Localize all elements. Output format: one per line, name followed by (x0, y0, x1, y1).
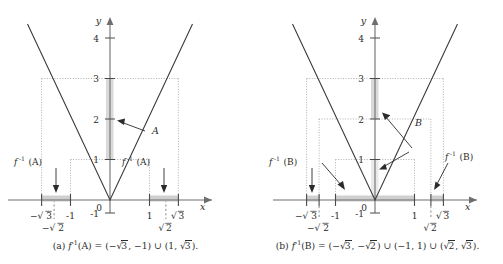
y-tick-label-1: 1 (93, 155, 99, 165)
x-tick-label-sqrt2: √ 2 (159, 223, 172, 233)
caption-b: (b) f-1(B) = (−√3, −√2) ∪ (−1, 1) ∪ (√2,… (252, 236, 503, 253)
preimage-label-left-exp: -1 (19, 155, 25, 162)
caption-a-arg: (A) = (− (78, 240, 117, 251)
plot-a: y x 4 3 2 1 -1 0 −√ 3 -1 1 √ 3 (0, 0, 251, 236)
set-b-arrow-head-2 (379, 164, 387, 170)
caption-b-end: ). (473, 240, 480, 251)
set-b-arrow-head (382, 113, 390, 121)
caption-b-radicand-2: 2 (370, 240, 377, 251)
x-tick-label-neg-sqrt2: −√ 2 (42, 223, 64, 233)
preimage-b-arrow-line-2 (322, 163, 342, 186)
y-tick-label-2: 2 (358, 115, 364, 125)
x-tick-label-neg-sqrt2-radicand: 2 (323, 223, 329, 233)
caption-b-arg: (B) = (− (301, 240, 340, 251)
plot-b: y x 4 3 2 1 -1 0 −√ 3 -1 1 √ 3 (252, 0, 503, 236)
x-tick-label-neg-sqrt2: −√ 2 (307, 223, 329, 233)
x-tick-label-neg-sqrt2-radicand: 2 (58, 223, 64, 233)
y-tick-label-1: 1 (358, 155, 364, 165)
origin-label: 0 (96, 203, 102, 213)
y-tick-label-4: 4 (93, 34, 99, 44)
x-tick-label-neg-sqrt3: −√ 3 (295, 211, 317, 221)
x-tick-label-sqrt2: √ 2 (424, 223, 437, 233)
figure-panel-a: y x 4 3 2 1 -1 0 −√ 3 -1 1 √ 3 (0, 0, 251, 264)
preimage-band-left (42, 196, 71, 202)
x-tick-label-sqrt3-text: √ (171, 211, 177, 221)
x-tick-label-neg-sqrt2-text: −√ (307, 223, 321, 233)
x-tick-label-1: 1 (147, 211, 153, 221)
preimage-left-arrow-head (53, 185, 59, 193)
y-tick-label-3: 3 (358, 74, 364, 84)
x-tick-label-neg-sqrt3-text: −√ (30, 211, 44, 221)
figure-container: y x 4 3 2 1 -1 0 −√ 3 -1 1 √ 3 (0, 0, 503, 264)
y-axis-arrow (107, 17, 114, 25)
y-axis-label: y (360, 15, 367, 26)
caption-b-radicand-4: 3 (466, 240, 473, 251)
preimage-label-left-arg: (A) (29, 157, 43, 167)
preimage-label-right-arg: (B) (460, 152, 474, 162)
x-tick-label-neg-sqrt3-text: −√ (295, 211, 309, 221)
preimage-label-right: f -1 (B) (444, 150, 473, 163)
x-tick-label-neg-sqrt3-radicand: 3 (311, 211, 317, 221)
preimage-label-left: f -1 (A) (13, 155, 42, 168)
origin-label: 0 (361, 203, 367, 213)
set-a-label: A (151, 125, 159, 136)
x-tick-label-neg-1: -1 (331, 211, 340, 221)
x-tick-label-sqrt3-text: √ (436, 211, 442, 221)
preimage-label-left-exp: -1 (274, 155, 280, 162)
preimage-label-left-arg: (B) (284, 157, 298, 167)
y-tick-label-2: 2 (93, 115, 99, 125)
y-tick-label-3: 3 (93, 74, 99, 84)
preimage-label-right-exp: -1 (450, 150, 456, 157)
x-tick-label-sqrt3-radicand: 3 (444, 211, 450, 221)
caption-a-end: ). (192, 240, 199, 251)
x-tick-label-sqrt3: √ 3 (436, 211, 450, 221)
x-tick-label-neg-sqrt2-text: −√ (42, 223, 56, 233)
preimage-band-right (150, 196, 179, 202)
x-tick-label-neg-sqrt3: −√ 3 (30, 211, 52, 221)
x-tick-label-sqrt2-radicand: 2 (431, 223, 437, 233)
preimage-b-arrow-line-3 (436, 163, 448, 186)
caption-b-prefix: (b) (276, 240, 289, 251)
x-tick-label-sqrt2-text: √ (424, 223, 430, 233)
y-axis-arrow (372, 17, 379, 25)
caption-b-m1: , − (352, 240, 366, 251)
x-tick-label-sqrt3-radicand: 3 (179, 211, 185, 221)
set-b-label: B (414, 117, 422, 128)
caption-a-radicand-2: 3 (185, 240, 192, 251)
preimage-label-right: f -1 (A) (121, 155, 150, 168)
preimage-band-far-right (431, 196, 444, 202)
set-a-arrow-head (117, 119, 125, 125)
x-tick-label-neg-sqrt3-radicand: 3 (46, 211, 52, 221)
y-axis-label: y (95, 15, 102, 26)
x-tick-label-sqrt2-text: √ (159, 223, 165, 233)
preimage-band-far-left (307, 196, 320, 202)
caption-a: (a) f-1(A) = (−√3, −1) ∪ (1, √3). (0, 236, 251, 253)
x-tick-label-neg-1: -1 (66, 211, 75, 221)
x-axis-label: x (200, 201, 206, 212)
y-tick-label-4: 4 (358, 34, 364, 44)
x-axis-label: x (465, 201, 471, 212)
set-b-arrow-line (385, 116, 412, 148)
caption-b-m2: ) ∪ (−1, 1) ∪ ( (377, 240, 444, 251)
x-tick-label-sqrt2-radicand: 2 (166, 223, 172, 233)
preimage-right-arrow-head (161, 185, 167, 193)
figure-panel-b: y x 4 3 2 1 -1 0 −√ 3 -1 1 √ 3 (252, 0, 503, 264)
preimage-b-arrow-head-3 (434, 182, 441, 191)
x-tick-label-1: 1 (412, 211, 418, 221)
x-tick-label-sqrt3: √ 3 (171, 211, 185, 221)
preimage-b-arrow-head-1 (309, 185, 315, 193)
preimage-label-right-arg: (A) (137, 157, 151, 167)
caption-a-mid: , −1) ∪ (1, (128, 240, 180, 251)
preimage-label-left: f -1 (B) (268, 155, 297, 168)
preimage-label-right-exp: -1 (127, 155, 133, 162)
set-a-arrow-line (121, 122, 145, 131)
caption-a-prefix: (a) (53, 240, 66, 251)
caption-b-radicand-1: 3 (345, 240, 352, 251)
